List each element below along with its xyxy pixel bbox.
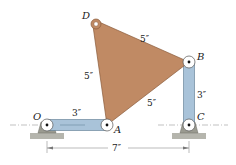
linkage-diagram: D B C O A 5″ 5″ 5″ 3″ 3″ 7″	[0, 0, 236, 165]
dim-db: 5″	[140, 34, 150, 44]
pin-a	[101, 119, 113, 131]
link-bc	[184, 62, 195, 125]
pin-hole-d	[94, 22, 98, 26]
dim-oa: 3″	[72, 108, 82, 118]
pin-o	[41, 119, 53, 131]
label-d: D	[81, 10, 90, 21]
dim-da: 5″	[84, 71, 94, 81]
dim-ab: 5″	[147, 98, 157, 108]
pin-b	[183, 56, 195, 68]
label-a: A	[113, 124, 121, 135]
dim-oc: 7″	[112, 143, 122, 153]
label-o: O	[33, 111, 41, 122]
pin-c	[183, 119, 195, 131]
label-c: C	[197, 111, 205, 122]
dim-bc: 3″	[197, 90, 207, 100]
label-b: B	[196, 51, 204, 62]
